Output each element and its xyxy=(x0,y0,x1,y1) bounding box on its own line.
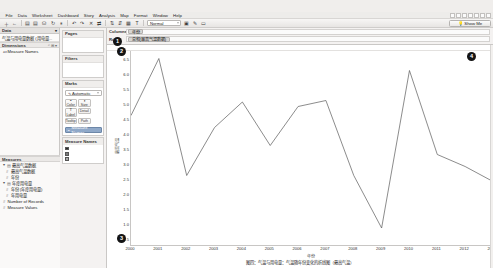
menu-item-story[interactable]: Story xyxy=(81,12,96,19)
expander-icon[interactable]: ▾ xyxy=(3,163,6,167)
dimension-field-label: Measure Names xyxy=(8,49,39,54)
badge-plot-area: 4 xyxy=(467,52,476,61)
vertical-scrollbar[interactable] xyxy=(490,45,493,268)
toolbar-separator xyxy=(21,20,22,26)
legend-swatch xyxy=(65,152,69,156)
datasource-item[interactable]: 气温与用电量数据 (用电量... xyxy=(0,34,59,42)
menu-item-analysis[interactable]: Analysis xyxy=(96,12,117,19)
presentation-mode-button[interactable]: ▭ xyxy=(200,19,208,27)
new-worksheet-button[interactable]: ＋ xyxy=(2,19,10,27)
menu-item-dashboard[interactable]: Dashboard xyxy=(55,12,81,19)
show-me-cell[interactable] xyxy=(450,13,456,18)
measure-field-label: Number of Records xyxy=(8,199,44,204)
clear-sheet-button[interactable]: ✕ xyxy=(87,19,95,27)
show-me-button[interactable]: 💡 Show Me xyxy=(449,20,491,27)
show-me-cell[interactable] xyxy=(456,13,462,18)
menu-item-data[interactable]: Data xyxy=(15,12,29,19)
sort-descending-button[interactable]: ⇵ xyxy=(116,19,124,27)
x-axis-tick-label: 2011 xyxy=(432,246,441,251)
legend-swatch xyxy=(65,157,69,161)
marks-title-label: Marks xyxy=(65,81,77,86)
y-axis-tick-label: 4.5 xyxy=(115,116,129,121)
connect-data-button[interactable]: ▤ xyxy=(32,19,40,27)
menu-item-map[interactable]: Map xyxy=(118,12,132,19)
path-button[interactable]: Path xyxy=(78,118,91,124)
filters-card-body[interactable] xyxy=(63,63,103,77)
search-icon[interactable]: ⌕ xyxy=(48,43,50,48)
pages-card: Pages xyxy=(62,30,104,54)
color-button[interactable]: ◓ Color xyxy=(65,99,78,108)
show-mark-labels-button[interactable]: T xyxy=(133,19,141,27)
pages-card-body[interactable] xyxy=(63,38,103,52)
show-me-cell[interactable] xyxy=(468,13,474,18)
redo-button[interactable]: ↷ xyxy=(78,19,86,27)
columns-pill-year[interactable]: 年份 xyxy=(128,29,143,34)
y-axis-tick-label: 6.5 xyxy=(115,56,129,61)
show-me-cell[interactable] xyxy=(486,13,492,18)
label-label: Label xyxy=(66,113,75,117)
measures-section: Measures ▾ ▤ 最高气温数据 # 最高气温数据 # 年份 ▾ ▤ 年度… xyxy=(0,155,60,268)
legend-item[interactable] xyxy=(65,156,101,161)
undo-button[interactable]: ↶ xyxy=(70,19,78,27)
columns-shelf[interactable]: Columns 年份 xyxy=(107,28,493,36)
plot-area[interactable] xyxy=(130,51,492,246)
save-button[interactable]: ▤ xyxy=(23,19,31,27)
mark-property-buttons: ◓ Color ◑ Size T Label Detail xyxy=(63,98,103,126)
mark-type-select[interactable]: ∿ Automatic xyxy=(65,90,102,97)
marks-pill-measure-names[interactable]: ◓ Measure Names xyxy=(65,127,102,133)
show-me-thumbnails[interactable] xyxy=(450,13,492,18)
swap-rows-columns-button[interactable]: ⇄ xyxy=(95,19,103,27)
x-axis-tick-label: 2012 xyxy=(460,246,469,251)
panel-menu-icon[interactable]: ▾ xyxy=(55,28,57,33)
columns-shelf-label: Columns xyxy=(109,29,124,34)
measure-names-legend: Measure Names xyxy=(62,137,104,163)
tooltip-button[interactable]: Tooltip xyxy=(65,118,78,124)
detail-label: Detail xyxy=(80,109,89,113)
expander-icon[interactable]: ▾ xyxy=(3,181,6,185)
pages-card-title: Pages xyxy=(63,31,103,39)
back-button[interactable]: ← xyxy=(11,19,19,27)
show-me-cell[interactable] xyxy=(480,13,486,18)
fix-axes-button[interactable]: ▣ xyxy=(183,19,191,27)
menu-item-format[interactable]: Format xyxy=(131,12,150,19)
show-me-cell[interactable] xyxy=(462,13,468,18)
pause-updates-button[interactable]: ⏸ xyxy=(57,19,65,27)
hash-icon: # xyxy=(6,169,9,174)
menu-item-file[interactable]: File xyxy=(3,12,15,19)
y-axis-tick-label: 1.0 xyxy=(115,221,129,226)
menu-bar: File Data Worksheet Dashboard Story Anal… xyxy=(0,12,493,19)
menu-item-window[interactable]: Window xyxy=(150,12,170,19)
show-me-cell[interactable] xyxy=(474,13,480,18)
label-button[interactable]: T Label xyxy=(65,108,78,117)
new-data-source-button[interactable]: ⛁ xyxy=(40,19,48,27)
tableau-window: File Data Worksheet Dashboard Story Anal… xyxy=(0,0,493,268)
x-axis-title: 年份 xyxy=(307,253,315,259)
group-members-button[interactable]: ▦ xyxy=(125,19,133,27)
y-axis-tick-label: 3.0 xyxy=(115,161,129,166)
chevron-down-icon[interactable]: ▾ xyxy=(55,43,57,48)
fit-select[interactable]: Normal xyxy=(147,20,181,27)
dimension-field-measure-names[interactable]: ᴀʙ Measure Names xyxy=(0,48,59,54)
x-axis-tick-label: 2006 xyxy=(293,246,302,251)
size-button[interactable]: ◑ Size xyxy=(78,99,91,108)
rows-shelf[interactable]: Rows 总和(最高气温数据) xyxy=(107,36,493,44)
refresh-data-button[interactable]: ↻ xyxy=(49,19,57,27)
rows-shelf-track[interactable]: 总和(最高气温数据) xyxy=(126,36,490,42)
marks-card-body: ∿ Automatic ◓ Color ◑ Size T Label xyxy=(63,90,103,134)
marks-card: Marks ∿ Automatic ◓ Color ◑ Size xyxy=(62,80,104,136)
menu-item-help[interactable]: Help xyxy=(171,12,185,19)
rows-pill-sum-max-temp[interactable]: 总和(最高气温数据) xyxy=(128,37,170,42)
menu-item-worksheet[interactable]: Worksheet xyxy=(29,12,55,19)
x-axis: 年份 2000200120022003200420052006200720082… xyxy=(130,246,492,258)
highlight-button[interactable]: ✎ xyxy=(191,19,199,27)
x-axis-tick-label: 2000 xyxy=(125,246,134,251)
columns-shelf-track[interactable]: 年份 xyxy=(126,29,490,35)
x-axis-tick-label: 2005 xyxy=(265,246,274,251)
x-axis-tick-label: 2009 xyxy=(376,246,385,251)
group-icon[interactable]: ⊞ xyxy=(51,43,54,48)
detail-button[interactable]: Detail xyxy=(78,108,91,114)
sort-ascending-button[interactable]: ⇅ xyxy=(108,19,116,27)
measure-field-measure-values[interactable]: # Measure Values xyxy=(0,204,60,210)
x-axis-tick-label: 2007 xyxy=(320,246,329,251)
dimensions-tools[interactable]: ⌕ ⊞ ▾ xyxy=(48,43,57,48)
